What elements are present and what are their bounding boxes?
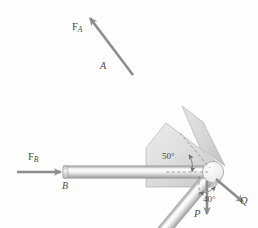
statics-diagram-svg — [0, 0, 258, 228]
force-p-label: P — [194, 209, 200, 220]
point-b-label: B — [62, 181, 68, 191]
point-a-label: A — [100, 61, 106, 71]
force-q-label: Q — [240, 196, 248, 207]
rod-b-end-cap — [63, 166, 68, 178]
angle-50-label: 50° — [162, 152, 175, 161]
force-fa-arrow — [90, 18, 133, 75]
force-fa-label: FA — [72, 22, 82, 33]
force-fb-label: FB — [28, 152, 38, 163]
force-fb-subscript: B — [34, 155, 39, 164]
force-fa-subscript: A — [78, 25, 83, 34]
angle-40-label: 40° — [203, 195, 216, 204]
force-q-arrow — [216, 179, 243, 202]
figure-canvas: FA A FB B 50° 40° P Q — [0, 0, 258, 228]
